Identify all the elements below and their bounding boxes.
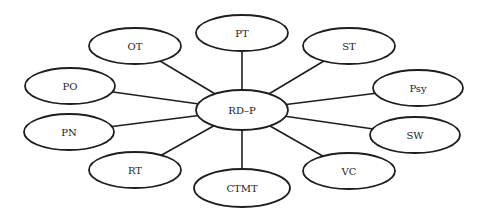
node-label: Psy [409, 83, 427, 94]
node-st: ST [303, 28, 395, 64]
node-label: PN [61, 127, 77, 138]
node-label: RT [128, 165, 142, 176]
nodes-layer: RD–POTPTSTPsySWVCCTMTRTPNPO [24, 15, 463, 207]
node-label: RD–P [228, 105, 256, 116]
node-pn: PN [24, 114, 114, 150]
node-vc: VC [303, 153, 395, 189]
node-psy: Psy [373, 70, 463, 106]
node-rd-p: RD–P [196, 90, 288, 130]
node-label: CTMT [226, 183, 258, 194]
node-sw: SW [370, 117, 460, 153]
node-label: VC [341, 166, 357, 177]
node-pt: PT [196, 15, 288, 51]
node-ctmt: CTMT [194, 169, 290, 207]
node-label: PO [63, 81, 78, 92]
node-label: ST [342, 41, 356, 52]
node-label: SW [406, 130, 424, 141]
hub-spoke-diagram: RD–POTPTSTPsySWVCCTMTRTPNPO [0, 0, 480, 217]
node-po: PO [25, 68, 115, 104]
node-ot: OT [89, 28, 181, 64]
node-label: PT [235, 28, 249, 39]
node-rt: RT [89, 152, 181, 188]
node-label: OT [128, 41, 143, 52]
